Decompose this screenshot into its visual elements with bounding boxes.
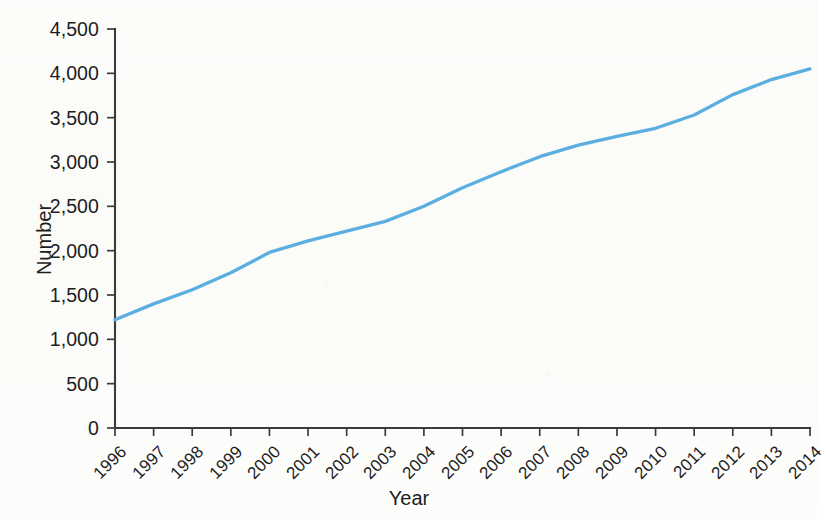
y-tick-label: 0	[0, 417, 99, 440]
y-tick-label: 1,000	[0, 328, 99, 351]
y-tick-label: 4,000	[0, 62, 99, 85]
y-tick-label: 4,500	[0, 18, 99, 41]
data-series-group	[115, 69, 810, 320]
axes-group	[107, 29, 810, 436]
y-axis-title: Number	[33, 180, 56, 300]
x-axis-ticks	[115, 428, 810, 436]
x-axis-title: Year	[0, 487, 818, 510]
y-tick-label: 500	[0, 372, 99, 395]
y-axis-ticks	[107, 29, 115, 428]
y-tick-label: 3,000	[0, 151, 99, 174]
series-line-number	[115, 69, 810, 320]
y-tick-label: 3,500	[0, 106, 99, 129]
